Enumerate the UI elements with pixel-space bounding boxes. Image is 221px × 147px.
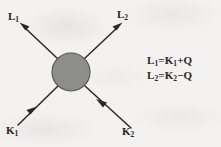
leg-label-L2: L2 <box>117 9 128 20</box>
equation-L2-rhs-subscript: 2 <box>173 74 177 83</box>
leg-K1 <box>18 86 58 125</box>
leg-K1-arrowhead <box>27 107 38 115</box>
leg-L2-arrowhead <box>113 23 123 31</box>
leg-label-K1: K1 <box>6 125 18 136</box>
leg-K1-line <box>18 86 58 125</box>
leg-L2 <box>84 23 123 60</box>
equation-L2-lhs-subscript: 2 <box>154 74 158 83</box>
equation-L1-rhs-last: Q <box>184 54 193 66</box>
scattering-diagram-figure: L1 L2 K1 K2 L1=K1+Q L2=K2−Q <box>0 0 221 147</box>
leg-label-K1-symbol: K <box>6 124 15 136</box>
equation-L1: L1=K1+Q <box>147 54 192 67</box>
leg-label-L1: L1 <box>8 11 19 22</box>
equation-L1-rhs-subscript: 1 <box>173 59 177 68</box>
equation-L2: L2=K2−Q <box>147 69 192 82</box>
equation-L1-lhs-subscript: 1 <box>154 59 158 68</box>
equation-L2-rhs-last: Q <box>184 69 193 81</box>
leg-K2-line <box>85 86 131 128</box>
leg-label-K1-subscript: 1 <box>15 129 19 138</box>
leg-K2 <box>85 86 131 128</box>
leg-label-K2: K2 <box>122 126 134 137</box>
leg-label-K2-subscript: 2 <box>131 130 135 139</box>
leg-label-L1-subscript: 1 <box>15 15 19 24</box>
leg-L2-line <box>84 27 118 59</box>
leg-L1-line <box>24 27 58 59</box>
leg-L1-arrowhead <box>20 23 30 31</box>
leg-label-L2-subscript: 2 <box>124 13 128 22</box>
leg-label-K2-symbol: K <box>122 125 131 137</box>
equation-block: L1=K1+Q L2=K2−Q <box>147 54 192 82</box>
leg-L1 <box>20 23 59 60</box>
